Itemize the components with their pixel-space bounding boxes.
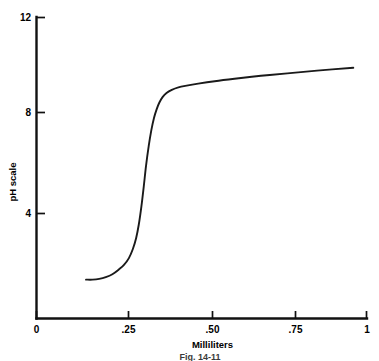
- titration-curve: [86, 68, 353, 280]
- x-tick-label-0: 0: [34, 324, 40, 335]
- y-tick-label-12: 12: [20, 12, 32, 23]
- figure-caption: Fig. 14-11: [179, 352, 220, 361]
- y-tick-group: [37, 18, 46, 214]
- x-axis-title: Milliliters: [192, 339, 233, 350]
- y-axis-title: pH scale: [7, 162, 18, 201]
- y-tick-label-4: 4: [25, 208, 31, 219]
- chart-canvas: 12 8 4 0 .25 .50 .75 1 Milliliters pH sc…: [0, 0, 379, 361]
- figure-container: 12 8 4 0 .25 .50 .75 1 Milliliters pH sc…: [0, 0, 379, 361]
- y-tick-label-8: 8: [25, 107, 31, 118]
- x-tick-label-075: .75: [289, 324, 303, 335]
- x-tick-label-025: .25: [122, 324, 136, 335]
- x-tick-label-1: 1: [364, 324, 370, 335]
- x-tick-label-050: .50: [206, 324, 220, 335]
